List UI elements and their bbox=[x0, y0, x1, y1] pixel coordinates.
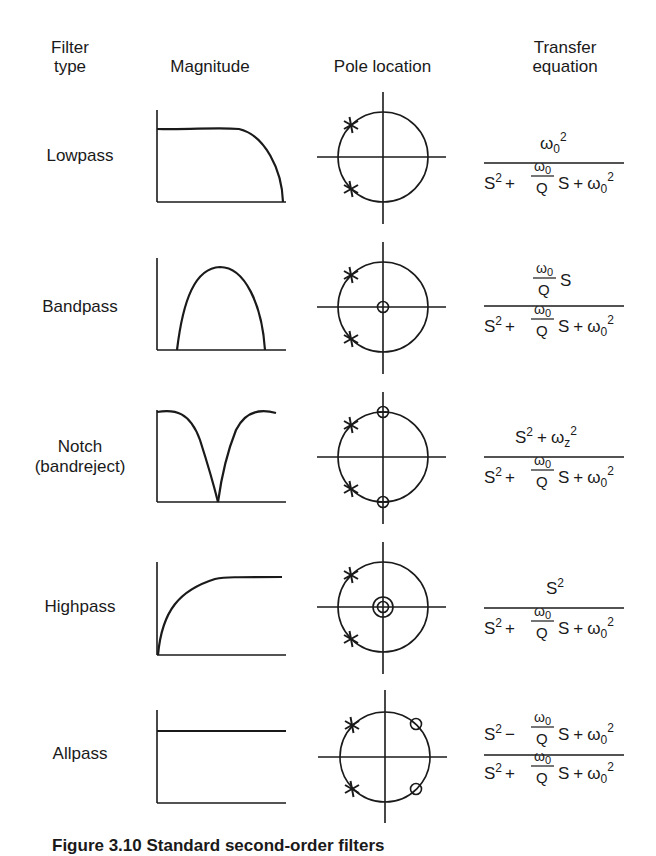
svg-text:ω0: ω0 bbox=[534, 603, 551, 621]
figure-caption: Figure 3.10 Standard second-order filter… bbox=[52, 836, 385, 856]
svg-text:S+ω02: S+ω02 bbox=[558, 170, 614, 196]
svg-text:S2+: S2+ bbox=[484, 314, 515, 336]
eq-denominator-row2: S2+ ω0 Q S+ω02 bbox=[484, 301, 614, 339]
svg-text:Q: Q bbox=[536, 322, 548, 339]
svg-text:Q: Q bbox=[536, 624, 548, 641]
svg-text:Q: Q bbox=[536, 473, 548, 490]
eq-denominator-row3: S2+ ω0 Q S+ω02 bbox=[484, 452, 614, 490]
svg-text:ω0: ω0 bbox=[534, 158, 551, 176]
svg-text:S2+: S2+ bbox=[484, 616, 515, 638]
svg-text:S2+: S2+ bbox=[484, 465, 515, 487]
svg-text:S+ω02: S+ω02 bbox=[558, 615, 614, 641]
svg-text:S+ω02: S+ω02 bbox=[558, 464, 614, 490]
eq-denominator-row5: S2+ ω0 Q S+ω02 bbox=[484, 748, 614, 786]
svg-text:ω0: ω0 bbox=[534, 748, 551, 766]
eq-denominator-row4: S2+ ω0 Q S+ω02 bbox=[484, 603, 614, 641]
svg-text:ω0: ω0 bbox=[534, 452, 551, 470]
svg-text:Q: Q bbox=[536, 769, 548, 786]
svg-text:S+ω02: S+ω02 bbox=[558, 313, 614, 339]
svg-text:Q: Q bbox=[536, 179, 548, 196]
svg-text:S+ω02: S+ω02 bbox=[558, 760, 614, 786]
eq-denominator-row1: S2+ ω0 Q S+ω02 bbox=[484, 158, 614, 196]
svg-text:S2+: S2+ bbox=[484, 171, 515, 193]
svg-text:S2+: S2+ bbox=[484, 761, 515, 783]
svg-text:ω0: ω0 bbox=[534, 301, 551, 319]
